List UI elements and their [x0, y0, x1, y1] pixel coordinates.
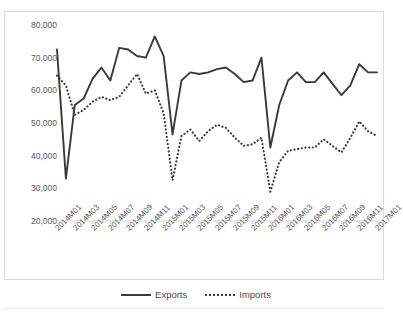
legend-swatch-dotted-icon: [205, 294, 235, 296]
series-line-exports: [57, 36, 377, 178]
chart-title: [0, 0, 392, 9]
legend-label-imports: Imports: [239, 290, 271, 300]
axis-area: 20,00030,00040,00050,00060,00070,00080,0…: [5, 12, 383, 279]
legend-label-exports: Exports: [155, 290, 187, 300]
legend-swatch-solid-icon: [121, 294, 151, 296]
plot-panel: 20,00030,00040,00050,00060,00070,00080,0…: [4, 11, 384, 280]
legend-entry-imports[interactable]: Imports: [205, 290, 271, 300]
plot-surface: [5, 12, 383, 279]
series-line-imports: [57, 74, 377, 192]
legend-entry-exports[interactable]: Exports: [121, 290, 187, 300]
data-series-layer: [57, 36, 377, 191]
bottom-divider: [4, 308, 384, 309]
chart-legend: Exports Imports: [0, 286, 392, 304]
